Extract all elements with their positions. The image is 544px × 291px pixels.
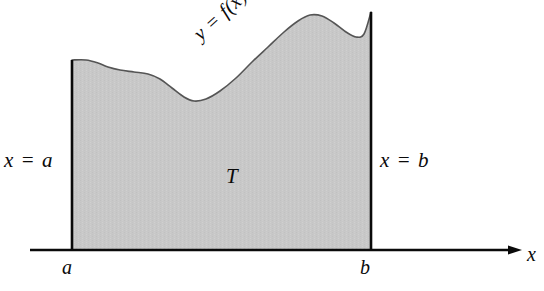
figure-canvas (0, 0, 544, 291)
x-tick-label-a: a (62, 257, 72, 277)
x-axis-arrowhead-icon (508, 245, 522, 254)
right-boundary-label: x = b (380, 150, 430, 171)
x-tick-label-b: b (360, 257, 370, 277)
area-under-curve-figure: x = a x = b T y = f(x) a b x (0, 0, 544, 291)
shaded-region-T (72, 12, 371, 250)
x-axis-label: x (527, 244, 536, 264)
region-label-T: T (226, 166, 238, 187)
left-boundary-label: x = a (4, 150, 54, 171)
